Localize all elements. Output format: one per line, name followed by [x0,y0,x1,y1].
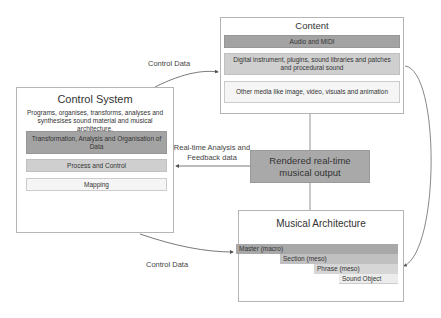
edge-label-feedback: Real-time Analysis and Feedback data [170,143,254,163]
level-phrase: Phrase (meso) [314,264,398,274]
rendered-output-title: Rendered real-time musical output [251,155,369,179]
control-item-process-control: Process and Control [26,159,167,172]
control-system-box: Control System Programs, organises, tran… [16,87,174,233]
level-sound-object: Sound Object [339,274,398,284]
level-master: Master (macro) [236,244,398,254]
content-box: Content Audio and MIDI Digital instrumen… [220,17,404,114]
control-system-description: Programs, organises, transforms, analyse… [17,109,173,133]
edge-label-control-to-architecture: Control Data [146,260,188,270]
content-item-audio-midi: Audio and MIDI [224,35,400,48]
control-item-transformation: Transformation, Analysis and Organisatio… [26,131,167,154]
edge-label-control-to-content: Control Data [148,59,190,69]
content-title: Content [221,20,403,31]
edge-label-feedback-text: Real-time Analysis and Feedback data [174,143,250,162]
level-section: Section (meso) [280,254,398,264]
content-item-other-media: Other media like image, video, visuals a… [224,81,400,103]
control-item-mapping: Mapping [26,178,167,191]
content-item-digital-instrument: Digital instrument, plugins, sound libra… [224,53,400,75]
rendered-output-box: Rendered real-time musical output [250,150,370,183]
musical-architecture-title: Musical Architecture [239,218,403,229]
control-system-title: Control System [17,93,173,105]
